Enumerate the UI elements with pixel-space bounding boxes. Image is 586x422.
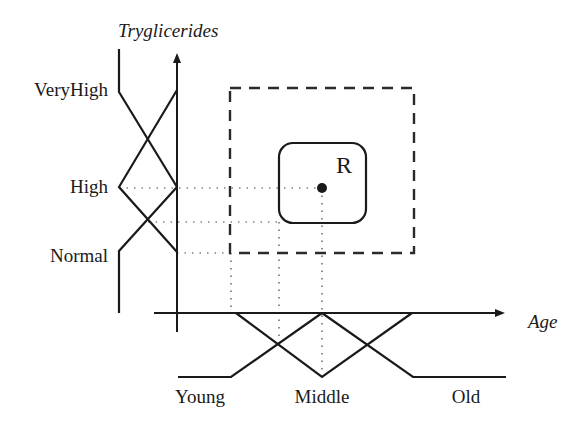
fuzzy-rule-diagram: Tryglicerides Age VeryHigh High Normal Y… xyxy=(0,0,586,422)
label-veryhigh: VeryHigh xyxy=(34,79,108,100)
x-membership-functions xyxy=(178,313,506,377)
label-young: Young xyxy=(175,386,225,407)
label-normal: Normal xyxy=(50,245,108,266)
label-old: Old xyxy=(452,386,481,407)
old-membership xyxy=(322,313,506,377)
veryhigh-membership xyxy=(119,49,177,187)
region-center-point xyxy=(317,183,327,193)
normal-membership xyxy=(119,187,177,313)
label-high: High xyxy=(70,176,109,197)
y-membership-functions xyxy=(119,49,177,313)
middle-membership xyxy=(236,313,412,377)
y-axis-label: Tryglicerides xyxy=(118,20,218,41)
dashed-region-boundary xyxy=(230,88,414,253)
label-middle: Middle xyxy=(295,386,350,407)
x-axis-label: Age xyxy=(526,311,558,332)
region-label-r: R xyxy=(336,152,352,178)
